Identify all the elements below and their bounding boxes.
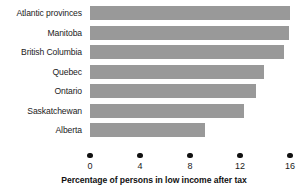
- category-label: Saskatchewan: [0, 106, 82, 116]
- bar: [90, 6, 290, 20]
- axis-tick-label: 4: [126, 161, 154, 172]
- x-axis-title: Percentage of persons in low income afte…: [0, 175, 308, 185]
- axis-tick-dot: [187, 153, 192, 158]
- axis-tick-dot: [237, 153, 242, 158]
- category-label: Ontario: [0, 86, 82, 96]
- category-label: Manitoba: [0, 28, 82, 38]
- bar: [90, 123, 205, 137]
- value-axis: 0481216: [0, 150, 308, 176]
- bar: [90, 84, 256, 98]
- bar: [90, 45, 284, 59]
- axis-tick-label: 16: [276, 161, 304, 172]
- category-label: Quebec: [0, 67, 82, 77]
- bar-chart: Atlantic provinces Manitoba British Colu…: [0, 0, 308, 195]
- bar: [90, 104, 244, 118]
- bar: [90, 26, 289, 40]
- bar: [90, 65, 264, 79]
- plot-area: [90, 0, 290, 150]
- axis-tick-label: 8: [176, 161, 204, 172]
- axis-tick-label: 12: [226, 161, 254, 172]
- category-label: British Columbia: [0, 47, 82, 57]
- axis-tick-dot: [87, 153, 92, 158]
- category-axis-labels: Atlantic provinces Manitoba British Colu…: [0, 0, 86, 150]
- axis-tick-dot: [287, 153, 292, 158]
- axis-tick-dot: [137, 153, 142, 158]
- category-label: Alberta: [0, 125, 82, 135]
- axis-tick-label: 0: [76, 161, 104, 172]
- category-label: Atlantic provinces: [0, 8, 82, 18]
